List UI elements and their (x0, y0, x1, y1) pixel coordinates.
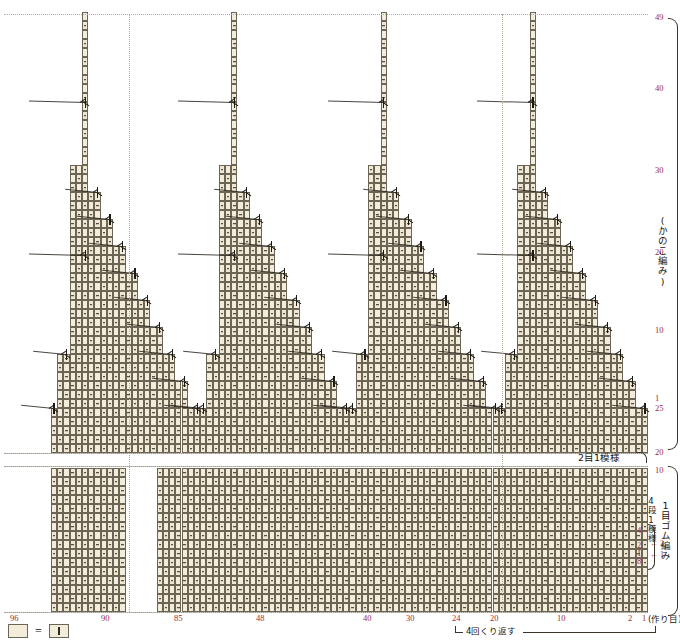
chart-cell (94, 381, 100, 390)
chart-cell (244, 477, 250, 486)
chart-cell (381, 192, 387, 201)
chart-cell (393, 504, 399, 513)
chart-cell (262, 426, 268, 435)
chart-cell (567, 576, 573, 585)
chart-cell (237, 594, 243, 603)
chart-cell (287, 408, 293, 417)
chart-cell (175, 513, 181, 522)
chart-cell (331, 435, 337, 444)
chart-cell (536, 255, 542, 264)
chart-cell (480, 549, 486, 558)
chart-cell (119, 282, 125, 291)
chart-cell (349, 603, 355, 612)
chart-cell (213, 363, 219, 372)
chart-cell (144, 426, 150, 435)
chart-cell (573, 372, 579, 381)
chart-cell (536, 435, 542, 444)
chart-cell (119, 594, 125, 603)
chart-cell (237, 192, 243, 201)
chart-cell (200, 495, 206, 504)
chart-cell (586, 603, 592, 612)
chart-cell (219, 390, 225, 399)
chart-cell (213, 540, 219, 549)
chart-cell (76, 174, 82, 183)
chart-cell (76, 201, 82, 210)
chart-cell (82, 255, 88, 264)
chart-cell (461, 381, 467, 390)
chart-cell (101, 426, 107, 435)
chart-cell (474, 540, 480, 549)
chart-cell (163, 381, 169, 390)
chart-cell (573, 354, 579, 363)
chart-cell (573, 522, 579, 531)
chart-cell (101, 504, 107, 513)
chart-cell (275, 540, 281, 549)
chart-cell (623, 567, 629, 576)
chart-cell (349, 426, 355, 435)
chart-cell (250, 522, 256, 531)
chart-cell (449, 399, 455, 408)
chart-cell (76, 558, 82, 567)
chart-cell (119, 504, 125, 513)
chart-cell (244, 246, 250, 255)
chart-cell (368, 522, 374, 531)
chart-cell (393, 363, 399, 372)
increase-leader-line (29, 254, 85, 256)
chart-cell (561, 435, 567, 444)
chart-cell (474, 567, 480, 576)
chart-cell (349, 558, 355, 567)
chart-cell (163, 363, 169, 372)
chart-cell (219, 345, 225, 354)
chart-cell (225, 585, 231, 594)
chart-cell (325, 522, 331, 531)
chart-cell (362, 594, 368, 603)
chart-cell (82, 291, 88, 300)
chart-cell (368, 291, 374, 300)
chart-cell (561, 309, 567, 318)
chart-cell (275, 363, 281, 372)
chart-cell (443, 336, 449, 345)
row-number-label: 4 (637, 526, 641, 535)
chart-cell (225, 282, 231, 291)
chart-cell (107, 540, 113, 549)
chart-cell (132, 435, 138, 444)
chart-cell (567, 390, 573, 399)
chart-cell (101, 444, 107, 453)
chart-cell (300, 549, 306, 558)
chart-cell (250, 282, 256, 291)
chart-cell (374, 585, 380, 594)
chart-cell (250, 399, 256, 408)
chart-cell (107, 549, 113, 558)
chart-cell (374, 219, 380, 228)
chart-cell (381, 66, 387, 75)
chart-cell (206, 444, 212, 453)
chart-cell (57, 576, 63, 585)
chart-cell (418, 585, 424, 594)
chart-cell (580, 576, 586, 585)
chart-cell (331, 477, 337, 486)
chart-cell (430, 372, 436, 381)
chart-cell (368, 576, 374, 585)
chart-cell (517, 327, 523, 336)
chart-cell (430, 426, 436, 435)
chart-cell (337, 444, 343, 453)
chart-cell (418, 309, 424, 318)
chart-cell (231, 111, 237, 120)
chart-cell (132, 345, 138, 354)
chart-cell (374, 372, 380, 381)
chart-cell (94, 354, 100, 363)
chart-cell (536, 354, 542, 363)
chart-cell (642, 417, 648, 426)
chart-cell (561, 594, 567, 603)
chart-cell (312, 444, 318, 453)
chart-cell (381, 237, 387, 246)
chart-cell (318, 390, 324, 399)
chart-cell (405, 372, 411, 381)
chart-cell (443, 468, 449, 477)
chart-cell (306, 354, 312, 363)
chart-cell (437, 504, 443, 513)
chart-cell (343, 408, 349, 417)
chart-cell (530, 165, 536, 174)
chart-cell (107, 417, 113, 426)
chart-cell (225, 381, 231, 390)
